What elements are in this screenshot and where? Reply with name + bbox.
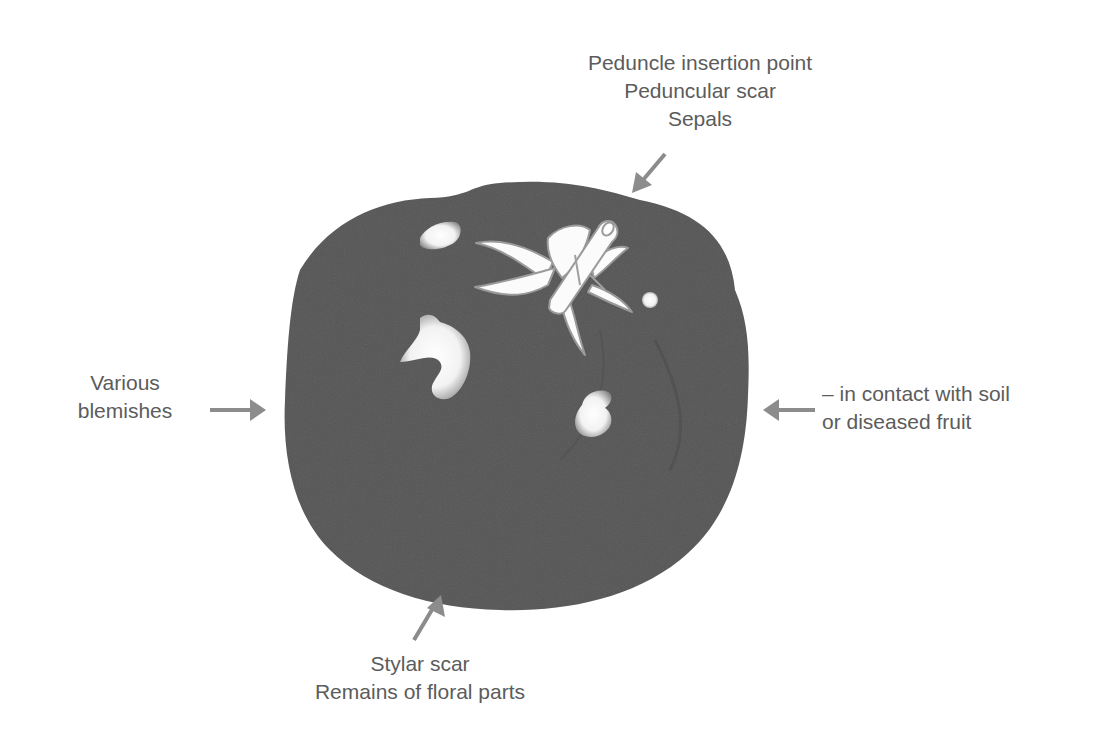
label-line: Stylar scar [265, 650, 575, 678]
label-line: Peduncular scar [545, 77, 855, 105]
arrow-bottom-icon [414, 595, 445, 640]
label-line: Various [40, 369, 210, 397]
label-contact: – in contact with soil or diseased fruit [822, 380, 1082, 436]
blemish-spot [642, 292, 658, 308]
label-line: – in contact with soil [822, 380, 1082, 408]
label-blemishes: Various blemishes [40, 369, 210, 425]
arrow-right-icon [763, 399, 815, 421]
label-peduncle: Peduncle insertion point Peduncular scar… [545, 49, 855, 133]
label-line: Sepals [545, 105, 855, 133]
label-line: blemishes [40, 397, 210, 425]
arrow-top-icon [632, 154, 665, 193]
label-line: or diseased fruit [822, 408, 1082, 436]
label-stylar-scar: Stylar scar Remains of floral parts [265, 650, 575, 706]
arrow-left-icon [210, 399, 266, 421]
label-line: Remains of floral parts [265, 678, 575, 706]
label-line: Peduncle insertion point [545, 49, 855, 77]
